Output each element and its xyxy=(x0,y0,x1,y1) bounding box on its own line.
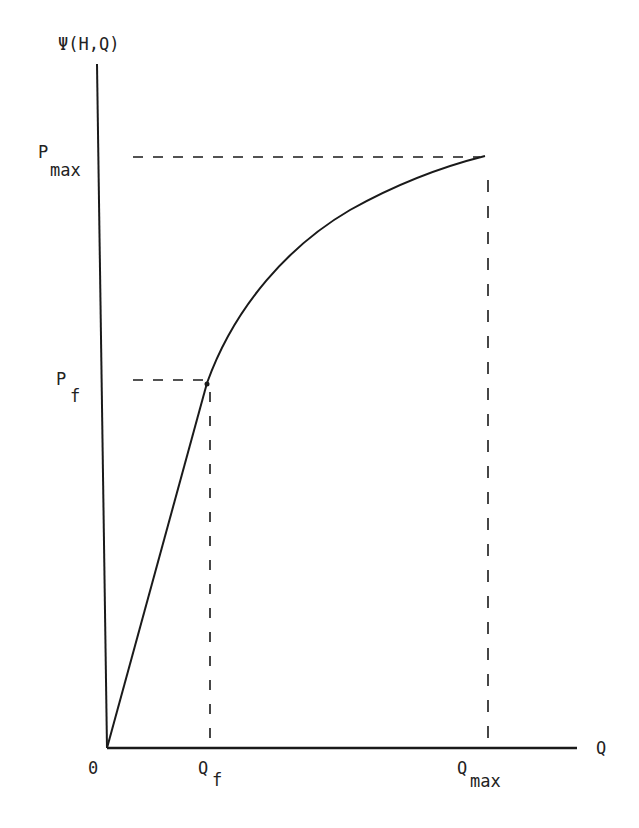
production-curve-diagram: Ψ(H,Q) Q 0 P max P f Q f Q max xyxy=(0,0,639,828)
breakpoint-marker xyxy=(205,382,210,387)
p-f-label: P xyxy=(56,369,66,389)
p-f-subscript: f xyxy=(70,386,80,406)
linear-segment xyxy=(107,383,207,748)
concave-segment xyxy=(207,156,485,383)
p-max-subscript: max xyxy=(50,160,81,180)
q-f-label: Q xyxy=(198,758,208,778)
y-axis-title: Ψ(H,Q) xyxy=(58,34,119,54)
y-axis xyxy=(97,64,107,748)
q-max-subscript: max xyxy=(470,771,501,791)
p-max-label: P xyxy=(38,142,48,162)
q-f-subscript: f xyxy=(212,770,222,790)
origin-label: 0 xyxy=(88,758,98,778)
x-axis-title: Q xyxy=(596,738,606,758)
q-max-label: Q xyxy=(457,758,467,778)
